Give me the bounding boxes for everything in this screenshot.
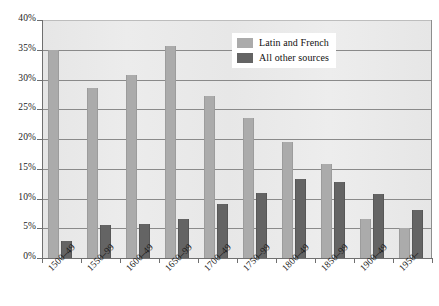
x-axis-tick-mark bbox=[354, 258, 355, 263]
bar-group bbox=[393, 20, 432, 258]
bar bbox=[165, 46, 176, 258]
bar bbox=[204, 96, 215, 258]
y-axis-tick-label: 30% bbox=[0, 73, 36, 83]
x-axis-tick-mark bbox=[81, 258, 82, 263]
legend-swatch-icon bbox=[237, 53, 253, 63]
x-axis-tick-mark bbox=[432, 258, 433, 263]
x-axis-tick-mark bbox=[276, 258, 277, 263]
bar bbox=[48, 50, 59, 258]
legend-label: Latin and French bbox=[259, 37, 329, 48]
bar bbox=[321, 164, 332, 258]
x-axis-tick-mark bbox=[42, 258, 43, 263]
bar-group bbox=[81, 20, 120, 258]
bar bbox=[87, 88, 98, 258]
bar bbox=[282, 142, 293, 258]
x-axis-tick-mark bbox=[315, 258, 316, 263]
x-axis-tick-mark bbox=[120, 258, 121, 263]
y-axis-tick-label: 15% bbox=[0, 162, 36, 172]
y-axis-tick-label: 35% bbox=[0, 43, 36, 53]
y-axis-tick-label: 20% bbox=[0, 132, 36, 142]
chart-legend: Latin and French All other sources bbox=[232, 33, 336, 68]
x-axis-tick-mark bbox=[237, 258, 238, 263]
x-axis-tick-mark bbox=[198, 258, 199, 263]
bar bbox=[126, 75, 137, 258]
bar-group bbox=[354, 20, 393, 258]
bar-group bbox=[42, 20, 81, 258]
legend-item-latin-and-french: Latin and French bbox=[237, 36, 329, 49]
bar-chart: 0%5%10%15%20%25%30%35%40% 1500–491550–99… bbox=[0, 0, 439, 306]
y-axis-tick-label: 25% bbox=[0, 102, 36, 112]
x-axis-tick-mark bbox=[393, 258, 394, 263]
y-axis-tick-label: 5% bbox=[0, 221, 36, 231]
y-axis-tick-label: 0% bbox=[0, 251, 36, 261]
bar-group bbox=[120, 20, 159, 258]
bar bbox=[243, 118, 254, 258]
legend-swatch-icon bbox=[237, 38, 253, 48]
legend-label: All other sources bbox=[259, 52, 329, 63]
bar bbox=[360, 219, 371, 258]
y-axis-tick-label: 10% bbox=[0, 192, 36, 202]
y-axis-tick-label: 40% bbox=[0, 13, 36, 23]
bar-group bbox=[159, 20, 198, 258]
legend-item-all-other-sources: All other sources bbox=[237, 51, 329, 64]
x-axis-tick-mark bbox=[159, 258, 160, 263]
